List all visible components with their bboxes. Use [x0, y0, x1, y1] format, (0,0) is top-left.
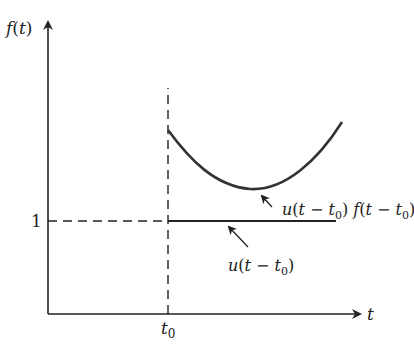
curve-pointer-arrow: [262, 196, 272, 207]
shifted-function-curve: [168, 122, 342, 189]
y-axis-label: f(t): [4, 18, 32, 38]
diagram-canvas: f(t) t 1 t0 u(t − t0) f(t − t0) u(t − t0…: [0, 0, 414, 351]
curve-label: u(t − t0) f(t − t0): [282, 200, 414, 222]
y-tick-one: 1: [31, 211, 42, 231]
step-pointer-arrow: [229, 227, 248, 247]
x-axis-label: t: [367, 304, 374, 324]
step-label: u(t − t0): [228, 256, 294, 278]
x-tick-t0: t0: [161, 318, 175, 341]
